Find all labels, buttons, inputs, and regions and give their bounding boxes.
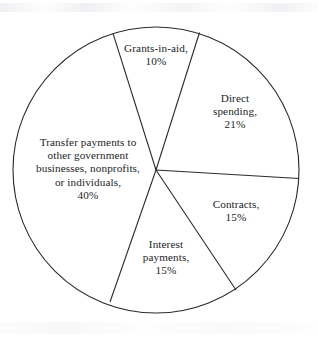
- slice-label-interest-payments: Interest payments, 15%: [125, 238, 207, 278]
- pie-chart-figure: Grants-in-aid, 10% Direct spending, 21% …: [0, 0, 318, 338]
- slice-label-transfer-payments: Transfer payments to other government bu…: [23, 136, 153, 202]
- slice-label-direct-spending: Direct spending, 21%: [196, 92, 274, 132]
- slice-label-grants-in-aid: Grants-in-aid, 10%: [104, 42, 208, 68]
- divider-direct-contracts: [156, 170, 299, 179]
- slice-label-contracts: Contracts, 15%: [196, 198, 276, 224]
